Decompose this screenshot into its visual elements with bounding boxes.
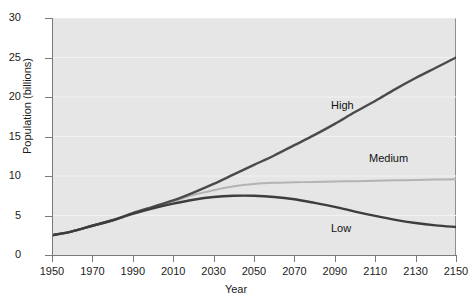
y-tick-mark — [45, 18, 52, 19]
x-tick-mark — [294, 256, 295, 262]
x-tick-mark — [52, 256, 53, 262]
x-tick-mark — [456, 256, 457, 262]
plot-area — [52, 18, 456, 255]
series-line-high — [52, 58, 456, 236]
y-tick-mark — [45, 176, 52, 177]
x-tick-label: 1970 — [70, 265, 114, 277]
x-tick-mark — [92, 256, 93, 262]
y-tick-mark — [45, 137, 52, 138]
x-tick-mark — [214, 256, 215, 262]
y-tick-label: 15 — [0, 131, 21, 142]
x-tick-label: 2070 — [272, 265, 316, 277]
x-tick-label: 2130 — [394, 265, 438, 277]
y-tick-label: 20 — [0, 91, 21, 102]
y-axis-spine — [52, 18, 53, 256]
x-tick-label: 2090 — [313, 265, 357, 277]
y-tick-mark — [45, 216, 52, 217]
series-label-high: High — [331, 99, 354, 111]
x-tick-mark — [375, 256, 376, 262]
y-axis-title: Population (billions) — [21, 21, 33, 191]
x-tick-mark — [335, 256, 336, 262]
y-tick-label: 10 — [0, 170, 21, 181]
x-tick-label: 2030 — [192, 265, 236, 277]
population-projection-chart: 051015202530 195019701990201020302050207… — [0, 0, 472, 303]
plot-canvas — [52, 18, 456, 255]
x-tick-label: 1990 — [111, 265, 155, 277]
x-axis-title: Year — [0, 283, 472, 295]
x-tick-label: 2150 — [434, 265, 472, 277]
y-tick-label: 5 — [0, 210, 21, 221]
x-tick-mark — [254, 256, 255, 262]
y-tick-mark — [45, 58, 52, 59]
series-label-medium: Medium — [369, 152, 408, 164]
x-tick-mark — [133, 256, 134, 262]
y-tick-label: 0 — [0, 249, 21, 260]
series-line-medium — [52, 179, 456, 235]
series-label-low: Low — [331, 222, 351, 234]
x-tick-label: 1950 — [30, 265, 74, 277]
y-tick-mark — [45, 255, 52, 256]
x-tick-label: 2110 — [353, 265, 397, 277]
x-tick-label: 2010 — [151, 265, 195, 277]
y-tick-mark — [45, 97, 52, 98]
x-tick-mark — [173, 256, 174, 262]
y-tick-label: 30 — [0, 12, 21, 23]
x-tick-label: 2050 — [232, 265, 276, 277]
y-tick-label: 25 — [0, 52, 21, 63]
x-tick-mark — [416, 256, 417, 262]
